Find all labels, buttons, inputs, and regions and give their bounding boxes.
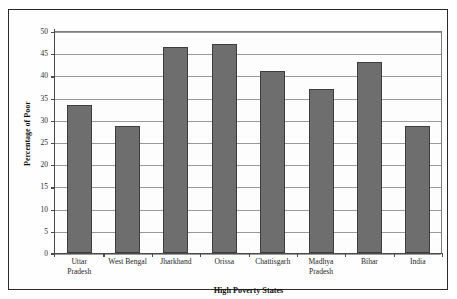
bar-bihar[interactable] [357, 62, 382, 253]
x-label-line: Pradesh [297, 267, 345, 277]
bar-chattisgarh[interactable] [260, 71, 285, 253]
bar-slot [345, 32, 393, 253]
bar-slot [103, 32, 151, 253]
bar-west-bengal[interactable] [115, 126, 140, 253]
x-label-bihar: Bihar [345, 257, 393, 267]
x-label-line: Bihar [345, 257, 393, 267]
bar-slot [249, 32, 297, 253]
x-tick [442, 253, 443, 257]
cropped-header-text: . [0, 0, 457, 8]
x-label-madhya-pradesh: MadhyaPradesh [297, 257, 345, 276]
x-label-line: Jharkhand [152, 257, 200, 267]
x-label-line: Uttar [55, 257, 103, 267]
bar-slot [200, 32, 248, 253]
bar-uttar-pradesh[interactable] [67, 105, 92, 253]
bar-slot [152, 32, 200, 253]
y-axis-title-wrap: Percentage of Poor [39, 80, 51, 190]
x-label-line: Orissa [200, 257, 248, 267]
x-label-line: India [394, 257, 442, 267]
x-label-jharkhand: Jharkhand [152, 257, 200, 267]
plot-area: 05101520253035404550 [55, 31, 442, 253]
y-axis-title: Percentage of Poor [23, 101, 32, 166]
bar-slot [297, 32, 345, 253]
x-label-line: Madhya [297, 257, 345, 267]
x-label-line: West Bengal [103, 257, 151, 267]
bar-jharkhand[interactable] [163, 47, 188, 253]
cropped-header-label: . [14, 0, 17, 2]
x-axis-title: High Poverty States [55, 286, 442, 295]
y-tick-0 [51, 254, 55, 255]
y-tick-label-10: 10 [41, 206, 49, 214]
x-label-west-bengal: West Bengal [103, 257, 151, 267]
bar-orissa[interactable] [212, 44, 237, 253]
bar-series [55, 32, 441, 253]
y-tick-label-50: 50 [41, 28, 49, 36]
y-tick-label-5: 5 [44, 228, 48, 236]
bar-india[interactable] [405, 126, 430, 253]
x-label-orissa: Orissa [200, 257, 248, 267]
x-axis-category-labels: UttarPradeshWest BengalJharkhandOrissaCh… [55, 257, 442, 283]
x-label-chattisgarh: Chattisgarh [249, 257, 297, 267]
x-label-line: Chattisgarh [249, 257, 297, 267]
y-tick-label-45: 45 [41, 50, 49, 58]
x-label-uttar-pradesh: UttarPradesh [55, 257, 103, 276]
bar-slot [394, 32, 442, 253]
chart-frame: 05101520253035404550 Percentage of Poor … [8, 9, 448, 290]
x-label-india: India [394, 257, 442, 267]
bar-madhya-pradesh[interactable] [309, 89, 334, 253]
chart-page: . 05101520253035404550 Percentage of Poo… [0, 0, 457, 299]
bar-slot [55, 32, 103, 253]
y-tick-label-0: 0 [44, 250, 48, 258]
x-label-line: Pradesh [55, 267, 103, 277]
